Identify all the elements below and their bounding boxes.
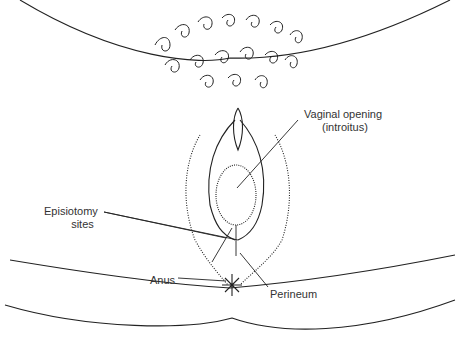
left-labia-minora xyxy=(209,120,235,240)
episiotomy-mediolateral xyxy=(212,228,232,262)
label-episiotomy-line1: Episiotomy xyxy=(44,205,98,218)
anatomy-drawing xyxy=(0,0,461,351)
upper-body-contour xyxy=(20,0,450,60)
label-vaginal-opening: Vaginal opening (introitus) xyxy=(304,108,382,134)
lower-body-contour xyxy=(5,300,455,329)
anus-mark xyxy=(222,274,242,296)
perineum-leader xyxy=(240,253,268,287)
label-perineum: Perineum xyxy=(270,288,317,301)
label-episiotomy-line2: sites xyxy=(44,218,98,231)
anus-leader xyxy=(178,278,226,281)
label-vaginal-opening-line2: (introitus) xyxy=(304,121,382,134)
left-thigh-line xyxy=(10,260,230,288)
right-thigh-line xyxy=(230,255,455,288)
pubic-hair xyxy=(155,14,302,87)
label-episiotomy: Episiotomy sites xyxy=(44,205,98,231)
label-anus: Anus xyxy=(150,274,175,287)
label-vaginal-opening-line1: Vaginal opening xyxy=(304,108,382,121)
left-labia-majora xyxy=(186,135,228,285)
clitoral-hood xyxy=(234,108,243,150)
